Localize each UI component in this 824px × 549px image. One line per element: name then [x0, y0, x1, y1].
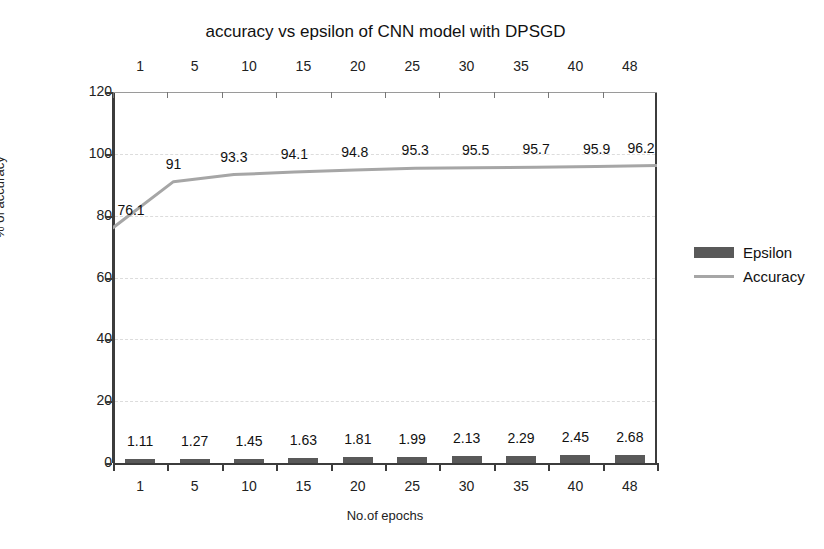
x-axis-tick-label: 10	[241, 478, 257, 494]
y-axis-tick-mark	[105, 154, 112, 156]
x-axis-tick-mark	[548, 463, 550, 471]
bar-data-label: 1.11	[127, 433, 153, 449]
chart-container: accuracy vs epsilon of CNN model with DP…	[0, 0, 824, 549]
line-data-label: 96.2	[627, 140, 654, 156]
bar-data-label: 2.68	[616, 429, 643, 445]
y-axis-tick-mark	[105, 401, 112, 403]
x-axis-tick-mark	[113, 463, 115, 471]
y-axis-title: % of accuracy	[0, 156, 7, 238]
y-axis-ticks: 020406080100120	[62, 92, 112, 463]
legend-label-accuracy: Accuracy	[743, 268, 805, 285]
legend-item-accuracy[interactable]: Accuracy	[694, 264, 814, 288]
y-axis-tick-label: 40	[68, 330, 112, 346]
x-axis-tick-label: 15	[296, 478, 312, 494]
y-axis-tick-mark	[105, 339, 112, 341]
x-axis-tick-label: 25	[404, 478, 420, 494]
y-axis-tick-label: 20	[68, 392, 112, 408]
secondary-x-tick-mark	[494, 92, 495, 98]
secondary-x-tick-mark	[331, 92, 332, 98]
line-data-label: 95.7	[522, 141, 549, 157]
x-axis-tick-mark	[276, 463, 278, 471]
x-axis-tick-mark	[222, 463, 224, 471]
bar-data-label: 1.99	[399, 431, 426, 447]
legend-label-epsilon: Epsilon	[743, 244, 792, 261]
secondary-x-tick-label: 35	[513, 58, 529, 74]
secondary-x-tick-mark	[385, 92, 386, 98]
legend-item-epsilon[interactable]: Epsilon	[694, 240, 814, 264]
secondary-x-tick-label: 5	[191, 58, 199, 74]
line-data-label: 91	[166, 156, 182, 172]
x-axis-tick-label: 5	[191, 478, 199, 494]
bar-data-label: 1.63	[290, 432, 317, 448]
bar-data-label: 2.45	[562, 429, 589, 445]
x-axis-tick-label: 30	[459, 478, 475, 494]
line-data-label: 94.1	[281, 146, 308, 162]
y-axis-tick-mark	[105, 92, 112, 94]
y-axis-tick-mark	[105, 216, 112, 218]
secondary-x-tick-mark	[167, 92, 168, 98]
accuracy-line-series	[113, 92, 657, 463]
y-axis-tick-label: 80	[68, 207, 112, 223]
x-axis-tick-label: 1	[136, 478, 144, 494]
secondary-x-tick-label: 40	[568, 58, 584, 74]
x-axis-tick-label: 35	[513, 478, 529, 494]
secondary-x-tick-label: 20	[350, 58, 366, 74]
y-axis-tick-label: 60	[68, 269, 112, 285]
chart-title: accuracy vs epsilon of CNN model with DP…	[113, 22, 658, 42]
x-axis-tick-mark	[167, 463, 169, 471]
x-axis-tick-mark	[657, 463, 659, 471]
bar-data-label: 1.27	[181, 433, 208, 449]
legend-bar-swatch-icon	[694, 247, 734, 258]
y-axis-tick-mark	[105, 278, 112, 280]
x-axis-tick-label: 20	[350, 478, 366, 494]
secondary-x-tick-label: 25	[404, 58, 420, 74]
secondary-x-tick-label: 30	[459, 58, 475, 74]
secondary-x-tick-mark	[276, 92, 277, 98]
secondary-x-tick-label: 1	[136, 58, 144, 74]
secondary-x-tick-label: 10	[241, 58, 257, 74]
line-data-label: 76.1	[117, 202, 144, 218]
x-axis-tick-label: 48	[622, 478, 638, 494]
secondary-x-tick-mark	[548, 92, 549, 98]
x-axis-tick-mark	[385, 463, 387, 471]
chart-legend: Epsilon Accuracy	[694, 240, 814, 288]
line-data-label: 93.3	[220, 149, 247, 165]
line-data-label: 94.8	[341, 144, 368, 160]
line-data-label: 95.9	[583, 141, 610, 157]
secondary-x-tick-mark	[222, 92, 223, 98]
y-axis-tick-mark	[105, 463, 112, 465]
bar-data-label: 2.29	[507, 430, 534, 446]
bar-data-label: 1.45	[235, 433, 262, 449]
secondary-x-tick-label: 48	[622, 58, 638, 74]
x-axis-tick-mark	[603, 463, 605, 471]
secondary-x-tick-mark	[439, 92, 440, 98]
y-axis-tick-label: 0	[68, 454, 112, 470]
x-axis-tick-mark	[439, 463, 441, 471]
secondary-x-tick-mark	[113, 92, 114, 98]
secondary-x-tick-mark	[603, 92, 604, 98]
secondary-x-tick-label: 15	[296, 58, 312, 74]
bar-data-label: 1.81	[344, 431, 371, 447]
x-axis-tick-label: 40	[568, 478, 584, 494]
x-axis-tick-mark	[331, 463, 333, 471]
x-axis-tick-mark	[494, 463, 496, 471]
bar-data-label: 2.13	[453, 430, 480, 446]
line-data-label: 95.5	[462, 142, 489, 158]
line-data-label: 95.3	[402, 142, 429, 158]
y-axis-tick-label: 100	[68, 145, 112, 161]
legend-line-swatch-icon	[694, 275, 734, 278]
x-axis-title: No.of epochs	[113, 508, 657, 523]
y-axis-tick-label: 120	[68, 83, 112, 99]
